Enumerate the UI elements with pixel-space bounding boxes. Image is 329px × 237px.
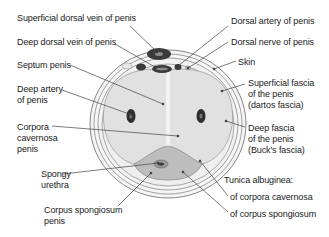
label-deep-artery: Deep artery of penis <box>17 84 63 106</box>
label-superficial-dorsal-vein: Superficial dorsal vein of penis <box>17 13 136 24</box>
label-line: penis <box>44 216 122 227</box>
label-septum-penis: Septum penis <box>17 60 71 71</box>
label-corpus-spongiosum: Corpus spongiosum penis <box>44 205 122 227</box>
label-line: Corpora <box>17 122 58 133</box>
label-deep-dorsal-vein: Deep dorsal vein of penis <box>17 37 116 48</box>
label-line: penis <box>17 144 58 155</box>
label-deep-fascia: Deep fascia of the penis (Buck's fascia) <box>248 123 305 156</box>
label-spongy-urethra: Spongy urethra <box>41 169 71 191</box>
label-line: of the penis <box>248 134 305 145</box>
label-superficial-fascia: Superficial fascia of the penis (dartos … <box>248 78 314 111</box>
label-line: Spongy <box>41 169 71 180</box>
label-tunica-albuginea: Tunica albuginea: <box>224 175 293 186</box>
label-skin: Skin <box>238 57 255 68</box>
label-line: Corpus spongiosum <box>44 205 122 216</box>
label-line: of the penis <box>248 89 314 100</box>
label-line: cavernosa <box>17 133 58 144</box>
label-line: of penis <box>17 95 63 106</box>
label-corpora-cavernosa: Corpora cavernosa penis <box>17 122 58 155</box>
label-line: (Buck's fascia) <box>248 145 305 156</box>
label-line: urethra <box>41 180 71 191</box>
label-line: Deep fascia <box>248 123 305 134</box>
label-tunica-spongiosum: of corpus spongiosum <box>230 209 316 220</box>
label-line: Deep artery <box>17 84 63 95</box>
label-dorsal-nerve: Dorsal nerve of penis <box>231 37 314 48</box>
label-tunica-cavernosa: of corpora cavernosa <box>230 192 313 203</box>
label-line: (dartos fascia) <box>248 100 314 111</box>
label-line: Superficial fascia <box>248 78 314 89</box>
label-dorsal-artery: Dorsal artery of penis <box>231 16 314 27</box>
